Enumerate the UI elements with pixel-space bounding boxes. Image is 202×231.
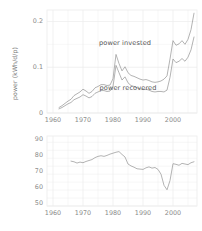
efficiency-ytick-70: 70 xyxy=(21,167,43,175)
power-y-axis-label: power (kWh/d/p) xyxy=(11,47,18,100)
figure-container: power (kWh/d/p) 0 0.1 0.2 1960 1970 1980… xyxy=(0,0,202,231)
efficiency-xtick-1970: 1970 xyxy=(70,209,96,217)
efficiency-ytick-80: 80 xyxy=(21,151,43,159)
efficiency-xtick-1980: 1980 xyxy=(100,209,126,217)
power-xtick-1960: 1960 xyxy=(40,116,66,124)
efficiency-xtick-2000: 2000 xyxy=(160,209,186,217)
chart-panel-power: power (kWh/d/p) 0 0.1 0.2 1960 1970 1980… xyxy=(0,0,202,128)
power-ytick-0.1: 0.1 xyxy=(21,63,43,71)
power-xtick-1980: 1980 xyxy=(100,116,126,124)
power-xtick-2000: 2000 xyxy=(160,116,186,124)
power-ytick-0.2: 0.2 xyxy=(21,17,43,25)
efficiency-ytick-60: 60 xyxy=(21,183,43,191)
annotation-power-invested: power invested xyxy=(99,39,151,47)
series-efficiency xyxy=(71,152,194,190)
efficiency-ytick-90: 90 xyxy=(21,135,43,143)
power-xtick-1990: 1990 xyxy=(130,116,156,124)
efficiency-xtick-1960: 1960 xyxy=(40,209,66,217)
efficiency-ytick-50: 50 xyxy=(21,199,43,207)
chart-panel-efficiency: efficiency (%) 50 60 70 80 90 1960 1970 … xyxy=(0,128,202,231)
annotation-power-recovered: power recovered xyxy=(100,84,157,92)
series-power-recovered xyxy=(59,37,194,109)
efficiency-xtick-1990: 1990 xyxy=(130,209,156,217)
power-xtick-1970: 1970 xyxy=(70,116,96,124)
